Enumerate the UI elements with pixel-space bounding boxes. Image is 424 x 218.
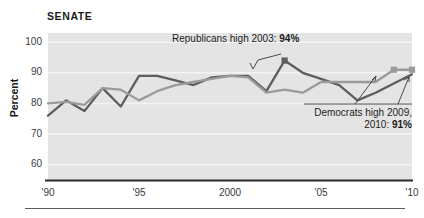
y-tick-80: 80 [8,97,42,108]
y-tick-60: 60 [8,158,42,169]
annotation-republicans-value: 94% [279,33,299,44]
annotation-republicans-peak: Republicans high 2003: 94% [172,33,299,45]
annotation-democrats-line2: 2010: 91% [276,119,412,131]
annotation-republicans-text: Republicans high 2003: [172,33,279,44]
annotation-democrats-value: 91% [392,119,412,130]
y-tick-90: 90 [8,66,42,77]
annotation-democrats-line1: Democrats high 2009, [276,107,412,119]
y-tick-70: 70 [8,128,42,139]
annotation-democrats-peak: Democrats high 2009, 2010: 91% [276,107,412,130]
senate-chart: SENATE Percent 60708090100 '90'952000'05… [0,0,424,218]
footer-divider [25,208,405,209]
y-tick-100: 100 [8,36,42,47]
annotation-democrats-text: 2010: [364,119,392,130]
x-tick-1990: '90 [25,187,71,198]
x-tick-1995: '95 [116,187,162,198]
x-tick-2010: '10 [389,187,424,198]
x-tick-2005: '05 [298,187,344,198]
x-tick-2000: 2000 [207,187,253,198]
